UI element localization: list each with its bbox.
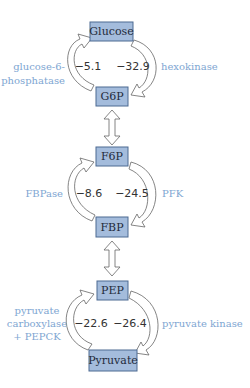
enzyme-label-glucose-6-phosphatase-line2: phosphatase: [1, 75, 65, 86]
energy-value-left: −5.1: [75, 60, 102, 73]
node-fbp-label: FBP: [100, 221, 124, 234]
enzyme-label-hexokinase: hexokinase: [161, 61, 218, 72]
enzyme-label-pyruvate-carboxylase-line2: carboxylase: [7, 318, 67, 329]
energy-value-left: −22.6: [74, 317, 108, 330]
energy-value-left: −8.6: [76, 187, 103, 200]
double-arrow-fbp-pep-icon: [104, 241, 120, 276]
node-glucose-label: Glucose: [89, 25, 133, 38]
energy-value-right: −24.5: [115, 187, 149, 200]
enzyme-label-glucose-6-phosphatase-line1: glucose-6-: [13, 61, 65, 72]
enzyme-label-pyruvate-carboxylase-line3: + PEPCK: [13, 331, 61, 342]
node-g6p-label: G6P: [100, 90, 124, 103]
substrate-cycle-diagram: Glucose G6P −5.1 −32.9 glucose-6- phosph…: [0, 0, 250, 388]
enzyme-label-fbpase: FBPase: [25, 188, 63, 199]
double-arrow-g6p-f6p-icon: [104, 110, 120, 145]
enzyme-label-pfk: PFK: [162, 188, 184, 199]
enzyme-label-pyruvate-carboxylase-line1: pyruvate: [15, 305, 60, 316]
enzyme-label-pyruvate-kinase: pyruvate kinase: [162, 318, 243, 329]
node-pep-label: PEP: [101, 284, 124, 297]
energy-value-right: −26.4: [113, 317, 147, 330]
cycle-glucose-g6p: Glucose G6P −5.1 −32.9 glucose-6- phosph…: [1, 22, 218, 106]
node-pyruvate-label: Pyruvate: [88, 354, 138, 367]
cycle-pep-pyruvate: PEP Pyruvate −22.6 −26.4 pyruvate carbox…: [7, 281, 243, 371]
cycle-f6p-fbp: F6P FBP −8.6 −24.5 FBPase PFK: [25, 147, 183, 237]
node-f6p-label: F6P: [101, 150, 124, 163]
energy-value-right: −32.9: [116, 60, 150, 73]
